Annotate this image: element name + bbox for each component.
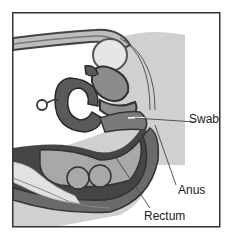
bladder — [93, 39, 127, 71]
swab-label: Swab — [189, 113, 219, 125]
anus-label: Anus — [178, 184, 205, 196]
ovary — [37, 100, 47, 110]
rectum-label: Rectum — [144, 210, 185, 222]
bowel-loop — [89, 165, 111, 187]
bowel-loop — [67, 167, 89, 189]
